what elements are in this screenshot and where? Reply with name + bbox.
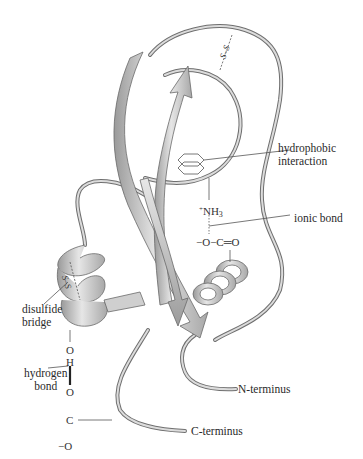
benzene-rings-icon xyxy=(178,154,204,174)
alpha-helix-right xyxy=(193,260,248,305)
carboxylate-group: −O−C═O xyxy=(196,236,239,248)
label-ionic-bond: ionic bond xyxy=(294,212,343,225)
carboxylate-o: −O xyxy=(58,440,72,452)
label-disulfide-bridge: disulfide bridge xyxy=(22,303,62,329)
label-hydrophobic-interaction: hydrophobic interaction xyxy=(278,142,336,168)
ammonium-group: +NH3 xyxy=(199,203,223,221)
hydroxyl-o: O xyxy=(66,344,74,356)
label-c-terminus: C-terminus xyxy=(191,425,243,438)
label-n-terminus: N-terminus xyxy=(238,383,290,396)
label-hydrogen-bond: hydrogen bond xyxy=(24,367,67,393)
carbonyl-c: C xyxy=(66,414,73,426)
